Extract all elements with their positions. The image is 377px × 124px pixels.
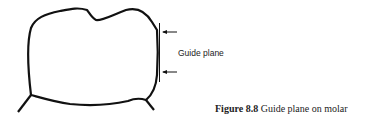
root-left — [18, 95, 31, 112]
figure-title: Guide plane on molar — [258, 103, 347, 114]
molar-outline — [28, 8, 158, 105]
root-right — [146, 100, 154, 110]
arrow-icon — [162, 70, 177, 74]
guide-plane-label: Guide plane — [178, 48, 224, 58]
arrow-icon — [162, 30, 177, 34]
figure-number: Figure 8.8 — [215, 103, 258, 114]
figure-caption: Figure 8.8 Guide plane on molar — [215, 103, 348, 114]
